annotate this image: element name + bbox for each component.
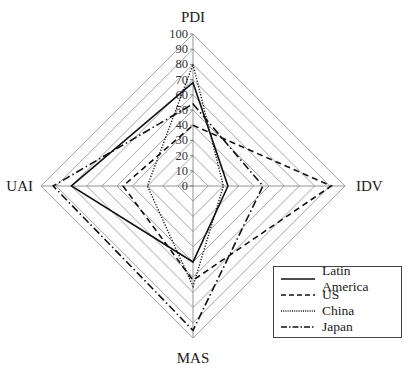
- chart-legend: Latin America US China Japan: [273, 266, 402, 338]
- legend-item-japan: Japan: [280, 319, 395, 335]
- legend-label: Japan: [322, 319, 353, 335]
- svg-text:0: 0: [182, 179, 188, 193]
- legend-label: US: [322, 287, 339, 303]
- tick-labels: 0102030405060708090100: [169, 27, 193, 193]
- dashed-line-swatch-icon: [280, 290, 316, 300]
- solid-line-swatch-icon: [280, 274, 316, 284]
- svg-text:20: 20: [176, 149, 189, 163]
- dash-dot-line-swatch-icon: [280, 322, 316, 332]
- series-japan: [53, 104, 263, 330]
- svg-text:40: 40: [176, 118, 189, 132]
- legend-item-china: China: [280, 303, 395, 319]
- dotted-line-swatch-icon: [280, 306, 316, 316]
- svg-text:80: 80: [176, 57, 189, 71]
- svg-text:90: 90: [176, 42, 189, 56]
- axis-label-mas: MAS: [177, 350, 210, 366]
- legend-label: China: [322, 303, 354, 319]
- legend-item-latin-america: Latin America: [280, 271, 395, 287]
- svg-text:100: 100: [169, 27, 188, 41]
- axis-label-idv: IDV: [356, 178, 383, 194]
- axis-label-uai: UAI: [6, 178, 33, 194]
- svg-text:10: 10: [176, 164, 189, 178]
- axis-label-pdi: PDI: [181, 9, 205, 25]
